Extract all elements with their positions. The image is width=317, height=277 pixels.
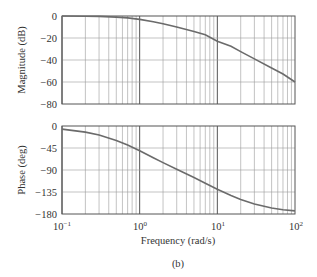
phase-ytick: −180 (35, 209, 57, 220)
phase-ytick: −45 (41, 143, 57, 154)
x-axis-label: Frequency (rad/s) (141, 235, 216, 247)
mag-ytick: 0 (52, 11, 57, 22)
phase-axis-label: Phase (deg) (16, 145, 28, 195)
mag-ytick: −60 (41, 77, 57, 88)
mag-ytick: −20 (41, 33, 57, 44)
bode-plot: 0 −20 −40 −60 −80 0 −45 −90 −135 −180 Ma… (0, 0, 317, 277)
xtick: 102 (289, 220, 304, 232)
xtick: 10−1 (53, 220, 71, 232)
phase-ytick: 0 (52, 121, 57, 132)
magnitude-curve (62, 16, 295, 82)
phase-y-ticks: 0 −45 −90 −135 −180 (35, 121, 57, 220)
xtick: 101 (211, 220, 226, 232)
magnitude-grid (62, 16, 295, 104)
xtick: 100 (133, 220, 148, 232)
mag-ytick: −40 (41, 55, 57, 66)
mag-ytick: −80 (41, 99, 57, 110)
figure-caption: (b) (172, 258, 185, 270)
phase-ytick: −90 (41, 165, 57, 176)
phase-ytick: −135 (35, 187, 57, 198)
magnitude-axis-label: Magnitude (dB) (16, 26, 28, 94)
x-ticks: 10−1 100 101 102 (53, 220, 303, 232)
magnitude-y-ticks: 0 −20 −40 −60 −80 (41, 11, 57, 110)
